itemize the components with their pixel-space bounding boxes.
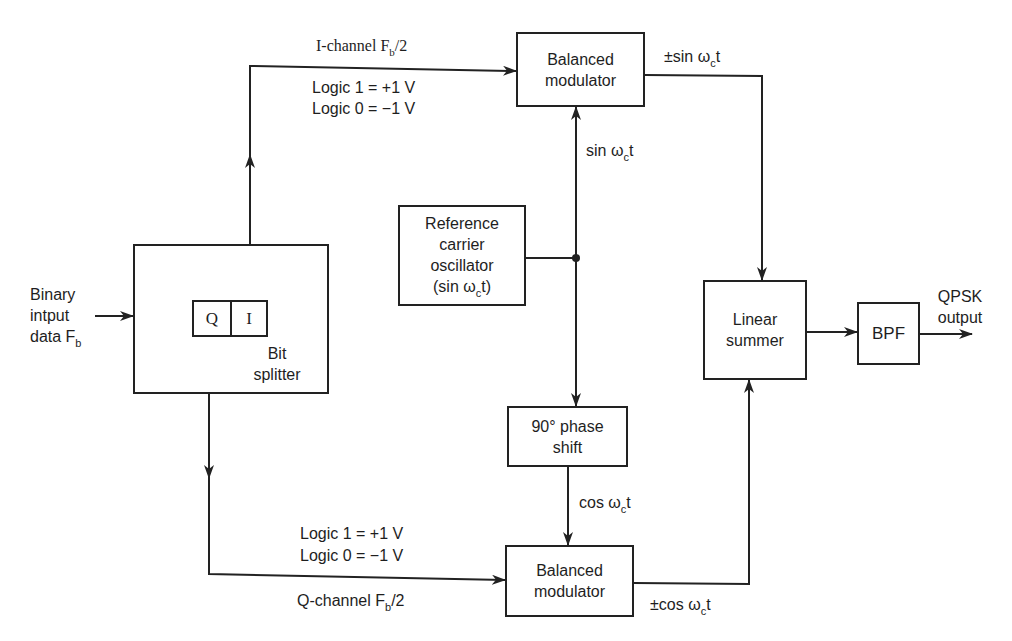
i-channel-label: I-channel Fb/2 — [316, 35, 407, 58]
bandpass-filter: BPF — [857, 302, 920, 365]
i-cell: I — [230, 300, 268, 337]
phase-shift-90: 90° phase shift — [507, 406, 628, 467]
bottom-modulator-output-label: ±cos ωct — [650, 594, 711, 617]
i-channel-logic1: Logic 1 = +1 V — [312, 77, 415, 98]
i-channel-logic0: Logic 0 = −1 V — [312, 98, 415, 119]
junction-dot — [572, 254, 580, 262]
top-balanced-modulator: Balanced modulator — [516, 32, 645, 107]
input-label-line3: data Fb — [30, 326, 81, 349]
cos-carrier-label: cos ωct — [579, 492, 631, 515]
q-channel-label: Q-channel Fb/2 — [297, 590, 405, 613]
bit-splitter-label: Bit splitter — [242, 343, 312, 385]
top-modulator-output-label: ±sin ωct — [664, 46, 720, 69]
input-label: Binary intput data Fb — [30, 284, 81, 349]
qpsk-output-label: QPSK output — [928, 286, 992, 328]
q-cell: Q — [192, 300, 232, 337]
input-label-line1: Binary — [30, 284, 81, 305]
sin-carrier-label: sin ωct — [586, 140, 633, 163]
bottom-balanced-modulator: Balanced modulator — [505, 545, 634, 617]
q-channel-logic1: Logic 1 = +1 V — [300, 523, 403, 544]
q-channel-logic0: Logic 0 = −1 V — [300, 545, 403, 566]
input-label-line2: intput — [30, 305, 81, 326]
reference-carrier-oscillator: Reference carrier oscillator (sin ωct) — [398, 205, 526, 306]
linear-summer: Linear summer — [703, 280, 807, 380]
